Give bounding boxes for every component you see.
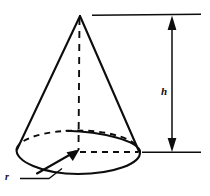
height-label: h (161, 86, 167, 97)
height-arrow-head-down (168, 138, 177, 152)
radius-leader-line (20, 169, 62, 179)
cone-diagram: h r (0, 0, 210, 196)
height-arrow-head-up (168, 16, 177, 31)
base-radius-indicator (37, 150, 138, 174)
radius-label: r (5, 172, 9, 182)
cone-figure-svg (0, 0, 210, 196)
radius-label-leader (20, 169, 62, 179)
top-extension-line (92, 14, 201, 15)
cone-left-slant-edge (17, 16, 80, 150)
base-rim-right-visible (67, 131, 141, 152)
base-front-arc (17, 149, 140, 174)
